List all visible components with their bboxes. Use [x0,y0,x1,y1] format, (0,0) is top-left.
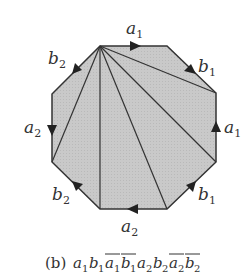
caption-prefix: (b) [45,254,66,272]
label-top-left: b2 [48,48,66,71]
caption-word: a1b1a1b1a2b2a2b2 [73,254,200,274]
octagon-diagram: a1 b1 a1 b1 a2 b2 a2 b2 (b) a1b1a1b1a2b2… [0,0,251,279]
label-bottom: a2 [121,216,138,239]
label-left: a2 [24,117,41,140]
label-top: a1 [126,18,143,41]
label-bottom-left: b2 [52,184,70,207]
label-bottom-right: b1 [198,184,216,207]
label-top-right: b1 [198,56,216,79]
label-right: a1 [224,117,241,140]
figure-caption: (b) a1b1a1b1a2b2a2b2 [45,254,200,274]
